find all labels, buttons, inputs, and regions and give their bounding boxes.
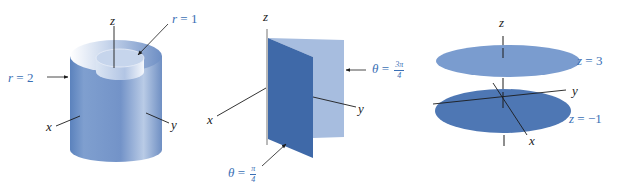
x-axis-label: x bbox=[207, 113, 213, 126]
theta-pi4-label: θ = π4 bbox=[228, 165, 256, 184]
y-axis-label: y bbox=[358, 102, 364, 115]
figure-graphic bbox=[0, 0, 619, 188]
horizontal-plane-panel bbox=[433, 36, 580, 146]
theta-pi4-arrow bbox=[262, 144, 286, 166]
x-axis bbox=[217, 88, 266, 116]
plane-z-3 bbox=[436, 45, 580, 77]
figure: z x y r = 1 r = 2 z x y θ = 3π4 θ = π4 z… bbox=[0, 0, 619, 188]
z-axis-label: z bbox=[110, 14, 115, 27]
z-axis-label: z bbox=[499, 16, 504, 29]
y-axis-label: y bbox=[572, 84, 578, 97]
theta-3pi4-label: θ = 3π4 bbox=[372, 61, 404, 80]
plane-zneg1-label: z = −1 bbox=[569, 112, 602, 125]
half-plane-panel bbox=[217, 29, 366, 166]
x-axis-label: x bbox=[529, 134, 535, 147]
y-axis-label: y bbox=[171, 118, 177, 131]
x-axis-label: x bbox=[46, 120, 52, 133]
cylinder-panel bbox=[47, 24, 169, 162]
plane-z3-label: z = 3 bbox=[577, 54, 602, 67]
r2-label: r = 2 bbox=[8, 71, 33, 84]
z-axis-label: z bbox=[263, 10, 268, 23]
half-plane-pi4 bbox=[268, 38, 313, 158]
r1-label: r = 1 bbox=[172, 12, 197, 25]
